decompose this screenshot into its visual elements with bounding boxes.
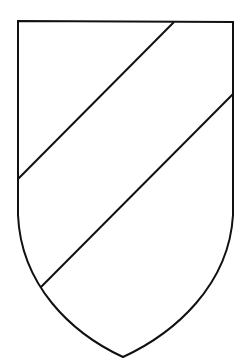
shield-diagram xyxy=(0,0,245,361)
